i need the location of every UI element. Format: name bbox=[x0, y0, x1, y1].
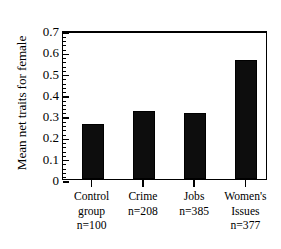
y-tick-label-0-2: 0.2 bbox=[28, 131, 59, 144]
y-major-tick bbox=[63, 181, 69, 182]
y-tick-label-0: 0 bbox=[28, 174, 59, 187]
bar-1 bbox=[133, 111, 155, 179]
bar-3 bbox=[235, 60, 257, 179]
y-axis-tick-labels: 00.10.20.30.40.50.60.7 bbox=[28, 31, 59, 180]
y-tick-label-0-1: 0.1 bbox=[28, 152, 59, 165]
x-category-label-3: Women'sIssuesn=377 bbox=[208, 190, 281, 234]
x-category-line: Issues bbox=[208, 205, 281, 220]
y-tick-label-0-5: 0.5 bbox=[28, 67, 59, 80]
bar-chart-figure: Mean net traits for female 00.10.20.30.4… bbox=[0, 0, 281, 249]
y-tick-label-0-7: 0.7 bbox=[28, 25, 59, 38]
x-tick-3 bbox=[245, 180, 246, 187]
x-category-line: Women's bbox=[208, 190, 281, 205]
bar-2 bbox=[184, 113, 206, 179]
x-tick-0 bbox=[91, 180, 92, 187]
x-tick-2 bbox=[193, 180, 194, 187]
plot-area bbox=[62, 31, 267, 180]
x-category-line: n=377 bbox=[208, 219, 281, 234]
bars-group bbox=[63, 33, 266, 179]
y-tick-label-0-3: 0.3 bbox=[28, 110, 59, 123]
x-category-line: n=100 bbox=[55, 219, 129, 234]
x-tick-1 bbox=[142, 180, 143, 187]
y-tick-label-0-6: 0.6 bbox=[28, 46, 59, 59]
y-tick-label-0-4: 0.4 bbox=[28, 88, 59, 101]
bar-0 bbox=[82, 124, 104, 179]
